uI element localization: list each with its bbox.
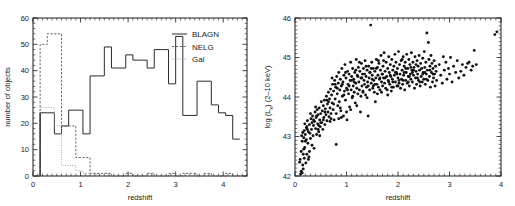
scatter-point [389, 63, 392, 66]
scatter-point [358, 70, 361, 73]
scatter-point [380, 81, 383, 84]
scatter-point [331, 83, 334, 86]
scatter-point [380, 91, 383, 94]
scatter-point [332, 90, 335, 93]
scatter-xtick-label: 3 [447, 180, 451, 189]
scatter-point [342, 94, 345, 97]
scatter-point [422, 78, 425, 81]
scatter-point [369, 24, 372, 27]
scatter-point [377, 86, 380, 89]
scatter-point [361, 84, 364, 87]
scatter-point [423, 50, 426, 53]
scatter-point [427, 58, 430, 61]
scatter-point [375, 67, 378, 70]
scatter-point [470, 69, 473, 72]
scatter-point [381, 73, 384, 76]
scatter-point [363, 79, 366, 82]
histogram-yaxis-title: number of objects [3, 67, 12, 127]
scatter-point [311, 115, 314, 118]
scatter-point [311, 144, 314, 147]
scatter-point [335, 143, 338, 146]
scatter-point [412, 74, 415, 77]
scatter-point [432, 77, 435, 80]
scatter-point [308, 150, 311, 153]
scatter-point [339, 109, 342, 112]
histogram-ytick-label: 60 [21, 14, 29, 23]
scatter-point [449, 56, 452, 59]
scatter-point [330, 112, 333, 115]
scatter-point [431, 62, 434, 65]
scatter-point [461, 63, 464, 66]
scatter-point [409, 78, 412, 81]
scatter-point [396, 73, 399, 76]
legend-label-nelg: NELG [192, 43, 214, 52]
scatter-point [408, 63, 411, 66]
histogram-axes-frame [33, 18, 247, 176]
scatter-point [332, 103, 335, 106]
scatter-point [429, 86, 432, 89]
scatter-point [401, 58, 404, 61]
scatter-point [389, 74, 392, 77]
scatter-point [391, 78, 394, 81]
scatter-point [359, 111, 362, 114]
scatter-point [312, 124, 315, 127]
scatter-point [459, 70, 462, 73]
scatter-point [366, 69, 369, 72]
scatter-point [425, 32, 428, 35]
scatter-point [416, 59, 419, 62]
scatter-point [349, 61, 352, 64]
scatter-point [329, 88, 332, 91]
scatter-point [424, 83, 427, 86]
scatter-point [319, 112, 322, 115]
scatter-point [336, 104, 339, 107]
scatter-point [419, 84, 422, 87]
scatter-point [346, 88, 349, 91]
scatter-point [314, 105, 317, 108]
scatter-point [303, 129, 306, 132]
histogram-xtick-label: 3 [174, 180, 178, 189]
scatter-point [372, 84, 375, 87]
scatter-point [462, 74, 465, 77]
scatter-point [358, 88, 361, 91]
scatter-point [315, 133, 318, 136]
scatter-point [367, 115, 370, 118]
scatter-point [431, 81, 434, 84]
scatter-point [419, 62, 422, 65]
scatter-point [391, 69, 394, 72]
scatter-point [357, 66, 360, 69]
scatter-point [317, 124, 320, 127]
scatter-point [357, 81, 360, 84]
scatter-point [340, 67, 343, 70]
scatter-point [305, 153, 308, 156]
scatter-point [376, 74, 379, 77]
scatter-point [408, 75, 411, 78]
scatter-point [373, 91, 376, 94]
scatter-xaxis-title: redshift [386, 193, 412, 202]
scatter-point [435, 70, 438, 73]
scatter-point [404, 79, 407, 82]
scatter-point [402, 79, 405, 82]
scatter-point [475, 63, 478, 66]
scatter-point [363, 83, 366, 86]
figure-container: 012340102030405060redshiftnumber of obje… [0, 0, 515, 206]
histogram-ytick-label: 30 [21, 93, 29, 102]
scatter-point [371, 74, 374, 77]
scatter-point [457, 77, 460, 80]
scatter-point [433, 59, 436, 62]
scatter-point [342, 74, 345, 77]
scatter-point [337, 117, 340, 120]
histogram-series-nelg [33, 34, 240, 176]
scatter-point [370, 82, 373, 85]
scatter-point [370, 61, 373, 64]
scatter-point [359, 95, 362, 98]
scatter-point [452, 65, 455, 68]
scatter-point [441, 82, 444, 85]
scatter-point [353, 81, 356, 84]
scatter-point [324, 107, 327, 110]
scatter-point [425, 78, 428, 81]
scatter-point [454, 71, 457, 74]
scatter-point [438, 63, 441, 66]
scatter-point [338, 88, 341, 91]
scatter-point [325, 95, 328, 98]
scatter-point [427, 41, 430, 44]
